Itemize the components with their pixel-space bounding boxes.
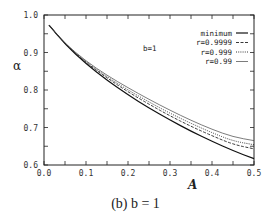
x-tick-label: 0.5 (247, 169, 262, 178)
y-tick-label: 0.8 (24, 86, 39, 95)
y-tick-label: 0.7 (24, 124, 39, 133)
y-tick-label: 0.9 (24, 49, 39, 58)
x-tick-label: 0.0 (37, 169, 52, 178)
x-tick-label: 0.2 (121, 169, 136, 178)
legend-label: minimum (200, 29, 232, 38)
legend-label: r=0.999 (200, 48, 232, 57)
legend: minimumr=0.9999r=0.999r=0.99 (196, 29, 248, 67)
line-chart: 0.00.10.20.30.40.50.60.70.80.91.0 minimu… (0, 0, 271, 223)
x-tick-label: 0.3 (163, 169, 178, 178)
figure-caption: (b) b = 1 (0, 196, 271, 212)
parameter-annotation: b=1 (143, 44, 157, 53)
x-axis-label: A (187, 178, 197, 192)
legend-label: r=0.9999 (196, 38, 232, 47)
y-tick-label: 0.6 (24, 161, 39, 170)
x-tick-label: 0.1 (79, 169, 94, 178)
legend-label: r=0.99 (205, 57, 232, 66)
y-axis-label: α (13, 59, 21, 73)
x-tick-label: 0.4 (205, 169, 220, 178)
y-tick-label: 1.0 (24, 11, 39, 20)
